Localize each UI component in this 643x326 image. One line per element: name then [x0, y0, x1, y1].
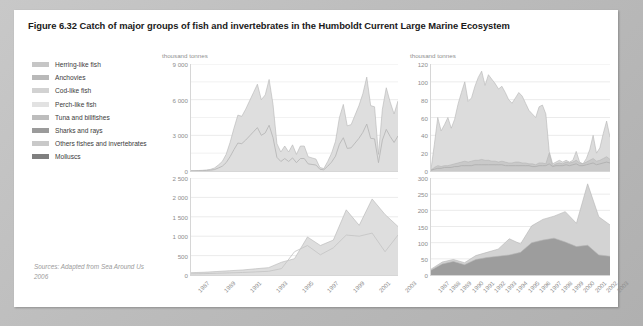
- chart-bottom-left-xaxis: 198719891991199319951997199920012003: [190, 278, 398, 294]
- y-axis-tick-label: 20: [413, 150, 428, 157]
- chart-bottom-right: 050100150200250300 198719881989199019911…: [410, 178, 610, 294]
- x-axis-tick-label: 1997: [549, 280, 563, 294]
- legend-item-label: Others fishes and invertebrates: [55, 140, 147, 147]
- legend-item: Others fishes and invertebrates: [32, 137, 156, 150]
- chart-top-right-unit-label: thousand tonnes: [410, 52, 456, 59]
- chart-top-left-unit-label: thousand tonnes: [162, 52, 208, 59]
- y-axis-tick-label: 50: [413, 255, 428, 262]
- legend-item: Herring-like fish: [32, 58, 156, 71]
- legend-item-label: Tuna and billfishes: [55, 114, 110, 121]
- figure-panel: Figure 6.32 Catch of major groups of fis…: [14, 10, 618, 307]
- y-axis-tick-label: 500: [165, 252, 188, 259]
- top-left-svg: [191, 64, 398, 171]
- y-axis-tick-label: 6 000: [165, 96, 188, 103]
- legend: Herring-like fishAnchoviesCod-like fishP…: [32, 58, 156, 164]
- y-axis-tick-label: 60: [413, 114, 428, 121]
- legend-item-label: Molluscs: [55, 153, 81, 160]
- x-axis-tick-label: 1994: [515, 280, 529, 294]
- bottom-right-svg: [431, 178, 610, 275]
- legend-item-label: Perch-like fish: [55, 101, 96, 108]
- chart-bottom-right-plot: [430, 178, 610, 276]
- y-axis-tick-label: 0: [165, 168, 188, 175]
- y-axis-tick-label: 150: [413, 223, 428, 230]
- x-axis-tick-label: 1996: [538, 280, 552, 294]
- bottom-left-svg: [191, 178, 398, 275]
- y-axis-tick-label: 80: [413, 96, 428, 103]
- chart-top-right-yaxis: 020406080100120: [410, 64, 428, 172]
- x-axis-tick-label: 1987: [197, 280, 211, 294]
- legend-swatch: [32, 102, 49, 107]
- x-axis-tick-label: 1995: [526, 280, 540, 294]
- chart-bottom-left-yaxis: 05001 0001 5002 0002 500: [162, 178, 188, 276]
- y-axis-tick-label: 2 000: [165, 194, 188, 201]
- chart-top-right-plot: [430, 64, 610, 172]
- x-axis-tick-label: 1991: [249, 280, 263, 294]
- legend-item: Cod-like fish: [32, 84, 156, 97]
- legend-item: Molluscs: [32, 150, 156, 163]
- legend-swatch: [32, 88, 49, 93]
- legend-swatch: [32, 154, 49, 159]
- y-axis-tick-label: 100: [413, 239, 428, 246]
- x-axis-tick-label: 2001: [594, 280, 608, 294]
- x-axis-tick-label: 1990: [470, 280, 484, 294]
- legend-item-label: Cod-like fish: [55, 87, 91, 94]
- legend-swatch: [32, 141, 49, 146]
- y-axis-tick-label: 1 000: [165, 233, 188, 240]
- chart-bottom-right-xaxis: 1987198819891990199119921993199419951996…: [430, 278, 610, 294]
- x-axis-tick-label: 2001: [378, 280, 392, 294]
- source-note: Sources: Adapted from Sea Around Us 2006: [34, 262, 150, 282]
- y-axis-tick-label: 1 500: [165, 213, 188, 220]
- y-axis-tick-label: 0: [165, 272, 188, 279]
- legend-swatch: [32, 62, 49, 67]
- x-axis-tick-label: 1993: [275, 280, 289, 294]
- chart-bottom-left: 05001 0001 5002 0002 500 198719891991199…: [162, 178, 398, 294]
- chart-top-right: thousand tonnes 020406080100120: [410, 52, 610, 172]
- x-axis-tick-label: 1997: [326, 280, 340, 294]
- chart-top-left: thousand tonnes 03 0006 0009 000: [162, 52, 398, 172]
- legend-item: Anchovies: [32, 71, 156, 84]
- y-axis-tick-label: 3 000: [165, 132, 188, 139]
- x-axis-tick-label: 2002: [605, 280, 619, 294]
- legend-swatch: [32, 128, 49, 133]
- y-axis-tick-label: 120: [413, 61, 428, 68]
- x-axis-tick-label: 1995: [300, 280, 314, 294]
- chart-top-left-plot: [190, 64, 398, 172]
- legend-item: Tuna and billfishes: [32, 111, 156, 124]
- legend-item-label: Anchovies: [55, 74, 85, 81]
- y-axis-tick-label: 0: [413, 272, 428, 279]
- y-axis-tick-label: 300: [413, 175, 428, 182]
- y-axis-tick-label: 2 500: [165, 175, 188, 182]
- x-axis-tick-label: 2000: [582, 280, 596, 294]
- legend-swatch: [32, 75, 49, 80]
- x-axis-tick-label: 1991: [482, 280, 496, 294]
- y-axis-tick-label: 200: [413, 207, 428, 214]
- x-axis-tick-label: 2003: [616, 280, 630, 294]
- series-area: [191, 199, 398, 275]
- legend-item-label: Sharks and rays: [55, 127, 103, 134]
- series-area: [431, 71, 610, 171]
- chart-bottom-right-yaxis: 050100150200250300: [410, 178, 428, 276]
- y-axis-tick-label: 0: [413, 168, 428, 175]
- y-axis-tick-label: 100: [413, 78, 428, 85]
- y-axis-tick-label: 9 000: [165, 61, 188, 68]
- chart-bottom-left-plot: [190, 178, 398, 276]
- legend-item: Sharks and rays: [32, 124, 156, 137]
- x-axis-tick-label: 1989: [223, 280, 237, 294]
- x-axis-tick-label: 1992: [493, 280, 507, 294]
- chart-top-left-yaxis: 03 0006 0009 000: [162, 64, 188, 172]
- x-axis-tick-label: 1989: [459, 280, 473, 294]
- top-right-svg: [431, 64, 610, 171]
- y-axis-tick-label: 250: [413, 191, 428, 198]
- legend-item: Perch-like fish: [32, 98, 156, 111]
- x-axis-tick-label: 1999: [352, 280, 366, 294]
- page-background: Figure 6.32 Catch of major groups of fis…: [0, 0, 643, 326]
- figure-title: Figure 6.32 Catch of major groups of fis…: [28, 20, 608, 31]
- y-axis-tick-label: 40: [413, 132, 428, 139]
- legend-item-label: Herring-like fish: [55, 61, 101, 68]
- legend-swatch: [32, 115, 49, 120]
